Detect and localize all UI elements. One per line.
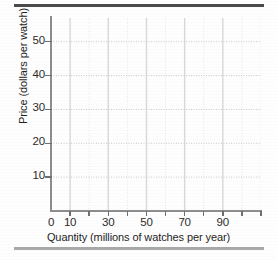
x-axis-tick: [241, 211, 242, 216]
x-axis-tick: [260, 211, 261, 216]
x-axis-tick-label: 30: [95, 216, 121, 228]
y-axis-tick: [45, 109, 52, 110]
x-axis-tick: [127, 211, 128, 216]
x-axis-tick-label: 70: [172, 216, 198, 228]
top-divider-rule: [14, 4, 264, 7]
x-axis-tick-label: 10: [57, 216, 83, 228]
x-axis-title: Quantity (millions of watches per year): [0, 231, 277, 243]
y-axis-tick: [45, 75, 52, 76]
x-axis-tick: [203, 211, 204, 216]
gridlines-svg: [51, 18, 261, 211]
x-axis-tick: [88, 211, 89, 216]
y-axis-tick-label: 10: [19, 169, 45, 181]
x-axis-line: [51, 210, 262, 212]
y-axis-tick: [45, 143, 52, 144]
x-axis-tick: [165, 211, 166, 216]
figure-container: 504030201001030507090 Price (dollars per…: [0, 0, 277, 260]
y-axis-tick: [45, 41, 52, 42]
y-axis-line: [50, 16, 52, 212]
plot-area: [51, 18, 261, 211]
y-axis-tick: [45, 176, 52, 177]
bottom-divider-rule: [14, 247, 264, 250]
x-axis-tick-label: 90: [210, 216, 236, 228]
y-axis-title: Price (dollars per watch): [17, 0, 29, 141]
x-axis-tick-label: 50: [133, 216, 159, 228]
